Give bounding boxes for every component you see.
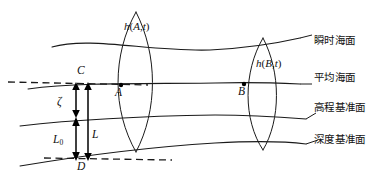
datum-diagram: h(A,t) h(B,t) A B C D ζ L0 L 瞬时海面 平均海面 高… <box>0 0 391 190</box>
wave-height-label-B: h(B,t) <box>256 58 281 69</box>
wave-height-label-A: h(A,t) <box>124 21 149 32</box>
lens-right-arc-right <box>263 38 277 150</box>
dimension-label-L0: L0 <box>53 134 63 146</box>
point-label-C: C <box>77 65 85 77</box>
lens-left-arc-left <box>118 12 136 152</box>
dimension-label-L0-sub: 0 <box>59 138 63 147</box>
lens-right-arc-left <box>248 38 263 150</box>
leader-instantaneous-sea-surface <box>300 35 312 38</box>
wave-height-B-arg: B <box>265 57 272 69</box>
wave-height-A-close-paren: ) <box>146 20 150 32</box>
surface-label-depth-datum-surface: 深度基准面 <box>314 134 366 145</box>
surface-label-height-datum-surface: 高程基准面 <box>314 102 366 113</box>
point-label-D: D <box>77 161 85 173</box>
point-label-B: B <box>238 86 245 98</box>
surface-label-instantaneous-sea-surface: 瞬时海面 <box>314 35 355 46</box>
height-datum-surface-line <box>20 115 306 126</box>
lens-left-arc-right <box>136 12 153 152</box>
L-dimension-arrow <box>84 82 92 161</box>
zeta-dimension-arrow <box>72 82 80 118</box>
instantaneous-sea-surface-line <box>52 38 300 50</box>
L0-dimension-arrow <box>72 117 80 161</box>
dimension-label-L: L <box>92 129 98 141</box>
dimension-label-zeta: ζ <box>57 96 62 108</box>
leader-height-datum-surface <box>306 113 316 119</box>
wave-height-B-close-paren: ) <box>278 57 282 69</box>
surface-label-mean-sea-surface: 平均海面 <box>314 72 355 83</box>
wave-height-A-arg: A <box>133 20 140 32</box>
point-label-A: A <box>115 87 122 99</box>
